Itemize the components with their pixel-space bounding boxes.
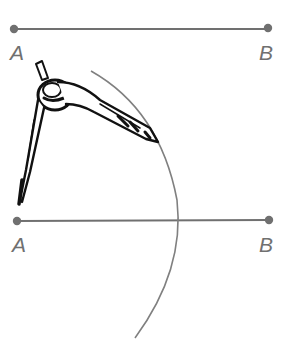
diagram-canvas: [0, 0, 287, 344]
point-a-bottom: [13, 217, 21, 225]
top-segment: [10, 24, 272, 33]
compass-icon: [19, 61, 158, 204]
label-b-top: B: [259, 42, 273, 63]
label-a-top: A: [10, 42, 24, 63]
point-b-top: [264, 24, 272, 32]
label-b-bottom: B: [259, 234, 273, 255]
label-a-bottom: A: [12, 234, 26, 255]
bottom-segment: [13, 216, 273, 225]
point-a-top: [10, 25, 18, 33]
point-b-bottom: [265, 216, 273, 224]
